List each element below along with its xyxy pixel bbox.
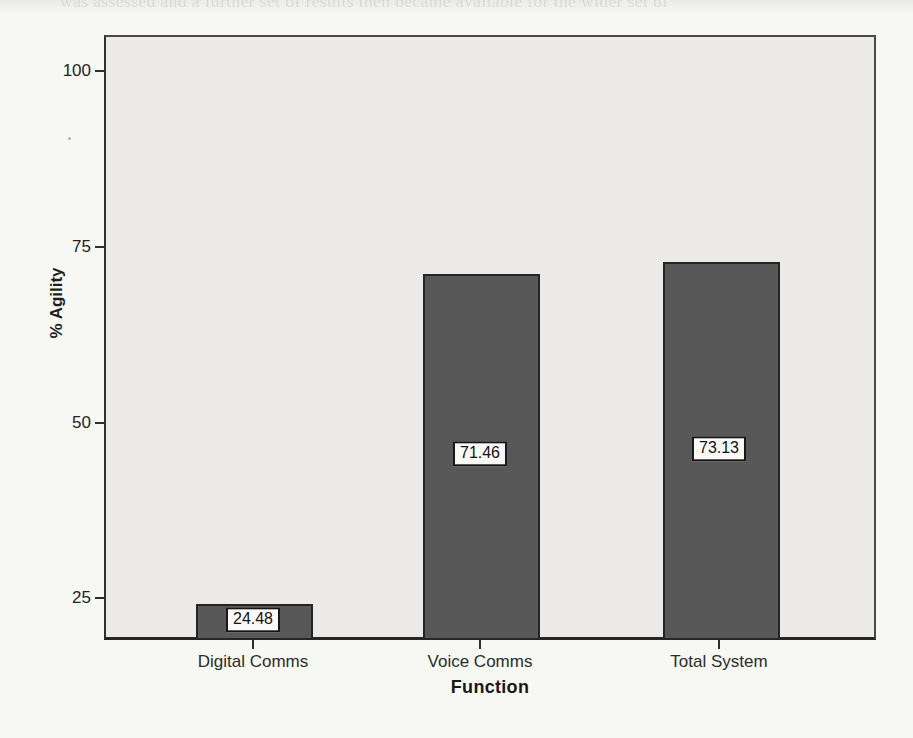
bar-value-label: 73.13 [692, 436, 746, 461]
y-axis-tick-mark [95, 597, 104, 599]
y-axis-tick-label: 25 [0, 588, 91, 608]
x-axis-tick-mark [252, 640, 254, 649]
scan-edge-smudge [0, 0, 913, 14]
y-axis-tick-mark [95, 70, 104, 72]
x-axis-tick-mark [718, 640, 720, 649]
y-axis-title: % Agility [47, 267, 67, 338]
bar-value-label: 24.48 [226, 607, 280, 632]
category-label-voice-comms: Voice Comms [428, 652, 533, 672]
category-label-digital-comms: Digital Comms [198, 652, 309, 672]
bar-value-label: 71.46 [453, 441, 507, 466]
y-axis-tick-label: 100 [0, 61, 91, 81]
y-axis-tick-label: 50 [0, 413, 91, 433]
x-axis-tick-mark [479, 640, 481, 649]
category-label-total-system: Total System [670, 652, 767, 672]
y-axis-tick-mark [95, 246, 104, 248]
scanned-page: was assessed and a further set of result… [0, 0, 913, 738]
y-axis-tick-label: 75 [0, 237, 91, 257]
y-axis-tick-mark [95, 422, 104, 424]
x-axis-title: Function [451, 677, 529, 698]
scan-speck [68, 137, 71, 140]
plot-area [104, 35, 876, 640]
